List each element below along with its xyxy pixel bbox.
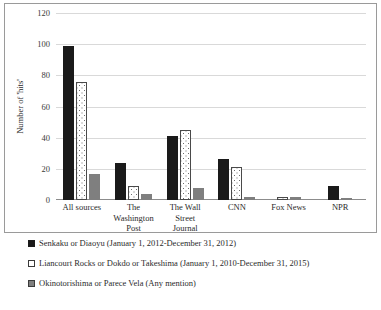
legend-label: Okinotorishima or Parece Vela (Any menti…: [39, 278, 196, 289]
bar: [193, 188, 204, 200]
x-axis-category-label: CNN: [211, 202, 263, 234]
bar-group: [263, 13, 315, 200]
x-axis-category-label: TheWashingtonPost: [108, 202, 160, 234]
chart-figure: Number of 'hits' 020406080100120 All sou…: [0, 0, 381, 310]
x-axis-label-line: Street: [160, 213, 210, 224]
x-axis-label-line: NPR: [315, 202, 365, 213]
y-axis-tick-label: 100: [37, 40, 50, 49]
x-axis-label-line: All sources: [57, 202, 107, 213]
x-axis-label-line: Journal: [160, 223, 210, 234]
bar-group: [108, 13, 160, 200]
y-axis-tick-label: 120: [37, 9, 50, 18]
x-axis-label-line: The Wall: [160, 202, 210, 213]
bar: [141, 194, 152, 200]
bar: [128, 186, 139, 200]
legend: Senkaku or Diaoyu (January 1, 2012-Decem…: [28, 238, 368, 298]
bar: [167, 136, 178, 200]
x-axis-label-line: Post: [109, 223, 159, 234]
x-axis-category-label: NPR: [314, 202, 366, 234]
legend-item: Liancourt Rocks or Dokdo or Takeshima (J…: [28, 258, 368, 278]
x-axis-category-label: All sources: [56, 202, 108, 234]
y-axis-title-text: Number of 'hits': [14, 13, 26, 200]
y-axis-tick-label: 40: [42, 133, 51, 142]
bar: [277, 197, 288, 200]
legend-label: Senkaku or Diaoyu (January 1, 2012-Decem…: [39, 238, 236, 249]
legend-label: Liancourt Rocks or Dokdo or Takeshima (J…: [39, 258, 309, 269]
bar: [89, 174, 100, 200]
legend-swatch: [28, 280, 35, 287]
bar: [63, 46, 74, 200]
bar-groups: [56, 13, 366, 200]
legend-item: Senkaku or Diaoyu (January 1, 2012-Decem…: [28, 238, 368, 258]
y-axis-tick-label: 80: [42, 71, 51, 80]
legend-swatch: [28, 260, 35, 267]
bar-group: [159, 13, 211, 200]
bar: [341, 198, 352, 200]
y-axis-tick-label: 0: [46, 196, 50, 205]
bar-group: [56, 13, 108, 200]
bar: [231, 167, 242, 200]
x-axis-category-label: Fox News: [263, 202, 315, 234]
bar: [290, 197, 301, 200]
y-axis-tick-label: 60: [42, 102, 51, 111]
x-axis-label-line: Washington: [109, 213, 159, 224]
x-axis-label-line: The: [109, 202, 159, 213]
bar: [244, 197, 255, 200]
y-axis-tick-label: 20: [42, 165, 51, 174]
x-axis-labels: All sourcesTheWashingtonPostThe WallStre…: [56, 202, 366, 234]
bar-group: [211, 13, 263, 200]
x-axis-label-line: CNN: [212, 202, 262, 213]
x-axis-category-label: The WallStreetJournal: [159, 202, 211, 234]
plot-area: 020406080100120: [56, 13, 366, 200]
x-axis-label-line: Fox News: [264, 202, 314, 213]
legend-item: Okinotorishima or Parece Vela (Any menti…: [28, 278, 368, 298]
bar: [328, 186, 339, 200]
bar: [115, 163, 126, 200]
bar: [76, 82, 87, 200]
legend-swatch: [28, 240, 35, 247]
bar-group: [314, 13, 366, 200]
bar: [180, 130, 191, 200]
bar: [218, 159, 229, 200]
